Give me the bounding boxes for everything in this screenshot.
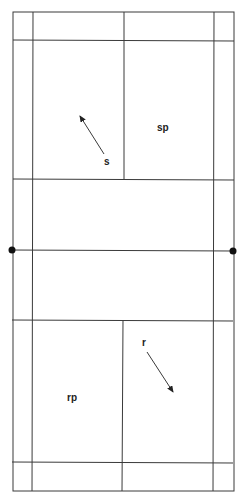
net [12, 250, 233, 251]
right-singles-sideline [213, 12, 214, 491]
top-short-service-line [13, 179, 234, 180]
net-post-right [230, 248, 237, 255]
receiver-arrow-icon [147, 352, 173, 392]
receiver-label: r [142, 337, 146, 348]
server-label: s [104, 156, 110, 167]
server-arrow-icon [80, 116, 104, 154]
bottom-center-line [122, 320, 123, 491]
net-post-left [9, 247, 16, 254]
server-partner-label: sp [157, 122, 169, 133]
court-diagram: s sp r rp [0, 0, 243, 503]
left-singles-sideline [32, 12, 33, 491]
receiver-partner-label: rp [67, 392, 77, 403]
